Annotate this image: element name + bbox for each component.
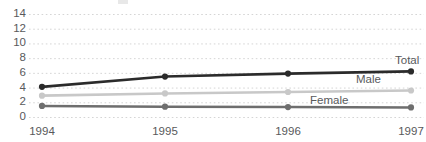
y-axis-tick-label: 6 — [4, 67, 26, 79]
data-point-marker — [285, 89, 291, 95]
data-point-marker — [285, 104, 291, 110]
x-axis-tick-label: 1997 — [398, 126, 424, 138]
y-axis-tick: 4 — [0, 82, 26, 94]
y-axis-tick: 0 — [0, 111, 26, 123]
series-line-male — [42, 91, 411, 96]
y-axis-tick: 12 — [0, 23, 26, 35]
series-line-female — [42, 106, 411, 107]
series-label-total: Total — [395, 55, 419, 67]
data-point-marker — [408, 68, 414, 74]
data-point-marker — [162, 90, 168, 96]
data-point-marker — [162, 104, 168, 110]
data-point-marker — [39, 103, 45, 109]
data-point-marker — [408, 104, 414, 110]
data-point-marker — [285, 70, 291, 76]
data-point-marker — [408, 87, 414, 93]
x-axis-tick-label: 1994 — [29, 126, 55, 138]
series-label-female: Female — [310, 95, 348, 107]
y-axis-tick-label: 2 — [4, 96, 26, 108]
data-point-marker — [39, 93, 45, 99]
y-axis-tick-label: 0 — [4, 111, 26, 123]
y-axis-tick-label: 4 — [4, 82, 26, 94]
x-axis-tick-label: 1995 — [152, 126, 178, 138]
y-axis-tick: 14 — [0, 8, 26, 20]
data-point-marker — [162, 73, 168, 79]
y-axis-tick: 8 — [0, 52, 26, 64]
y-axis-tick-label: 12 — [4, 23, 26, 35]
data-point-marker — [39, 84, 45, 90]
y-axis-tick: 6 — [0, 67, 26, 79]
y-axis-tick-label: 10 — [4, 37, 26, 49]
chart-plot — [0, 0, 426, 142]
x-axis-tick-label: 1996 — [275, 126, 301, 138]
line-chart: 02468101214 1994199519961997 TotalMaleFe… — [0, 0, 426, 142]
y-axis-tick-label: 8 — [4, 52, 26, 64]
y-axis-tick-label: 14 — [4, 8, 26, 20]
y-axis-tick: 10 — [0, 37, 26, 49]
y-axis-tick: 2 — [0, 96, 26, 108]
series-label-male: Male — [356, 74, 381, 86]
